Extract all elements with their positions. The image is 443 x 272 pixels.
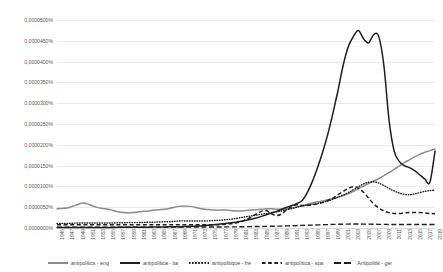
legend-label: antipolítica - spa xyxy=(285,260,323,266)
x-axis-tick-label: 1991 xyxy=(294,229,300,240)
x-axis-tick-label: 1983 xyxy=(253,229,259,240)
x-axis-tick-label: 2007 xyxy=(376,229,382,240)
legend-swatch-icon xyxy=(120,262,140,264)
x-axis-tick-label: 2011 xyxy=(396,229,402,239)
y-axis-tick-label: 0,0000250% xyxy=(24,121,53,127)
x-axis-tick-label: 2019 xyxy=(437,229,443,240)
x-axis-tick-label: 1949 xyxy=(80,229,86,240)
chart-legend: antipolitics - engantipolitica - itaanti… xyxy=(0,256,440,270)
legend-item[interactable]: antipolitica - ita xyxy=(120,260,178,266)
y-axis-tick-label: 0,0000500% xyxy=(24,17,53,23)
x-axis-tick-label: 1955 xyxy=(110,229,116,240)
legend-item[interactable]: antipolitics - eng xyxy=(48,260,109,266)
legend-label: antipolitica - ita xyxy=(143,260,178,266)
x-axis-tick-label: 2015 xyxy=(417,229,423,240)
x-axis-tick-label: 1947 xyxy=(69,229,75,240)
series-layer xyxy=(57,20,435,228)
x-axis-tick-label: 1959 xyxy=(131,229,137,240)
x-axis-tick-label: 1993 xyxy=(304,229,310,240)
legend-item[interactable]: antipolítica - spa xyxy=(262,260,323,266)
legend-swatch-icon xyxy=(189,262,209,264)
x-axis-tick-label: 1963 xyxy=(151,229,157,240)
x-axis-tick-label: 1961 xyxy=(141,229,147,240)
x-axis-tick-label: 1979 xyxy=(233,229,239,240)
x-axis-tick-label: 1951 xyxy=(90,229,96,240)
x-axis-tick-label: 2005 xyxy=(366,229,372,240)
x-axis-tick-label: 1995 xyxy=(315,229,321,240)
y-axis: 0,0000000%0,0000050%0,0000100%0,0000150%… xyxy=(0,0,57,236)
legend-label: Antipolitik - ger xyxy=(357,260,392,266)
x-axis-tick-label: 1977 xyxy=(223,229,229,240)
legend-label: antipolitique - fre xyxy=(212,260,251,266)
x-axis-tick-label: 2009 xyxy=(386,229,392,240)
y-axis-tick-label: 0,0000300% xyxy=(24,100,53,106)
legend-label: antipolitics - eng xyxy=(71,260,109,266)
x-axis-tick-label: 2003 xyxy=(355,229,361,240)
x-axis-tick-label: 1971 xyxy=(192,229,198,240)
legend-swatch-icon xyxy=(334,262,354,264)
y-axis-tick-label: 0,0000150% xyxy=(24,163,53,169)
y-axis-tick-label: 0,0000200% xyxy=(24,142,53,148)
x-axis-tick-label: 1987 xyxy=(274,229,280,240)
legend-swatch-icon xyxy=(48,262,68,264)
x-axis: 1945194719491951195319551957195919611963… xyxy=(57,229,435,259)
y-axis-tick-label: 0,0000350% xyxy=(24,79,53,85)
series-line-eng xyxy=(57,149,435,213)
x-axis-tick-label: 1945 xyxy=(59,229,65,240)
x-axis-tick-label: 1973 xyxy=(202,229,208,240)
series-line-ita xyxy=(57,30,435,227)
series-line-spa xyxy=(57,187,435,225)
y-axis-tick-label: 0,0000400% xyxy=(24,59,53,65)
x-axis-tick-label: 1997 xyxy=(325,229,331,240)
x-axis-tick-label: 1953 xyxy=(100,229,106,240)
x-axis-tick-label: 1965 xyxy=(161,229,167,240)
x-axis-tick-label: 1989 xyxy=(284,229,290,240)
x-axis-tick-label: 1999 xyxy=(335,229,341,240)
y-axis-tick-label: 0,0000450% xyxy=(24,38,53,44)
x-axis-tick-label: 1981 xyxy=(243,229,249,240)
legend-item[interactable]: antipolitique - fre xyxy=(189,260,251,266)
y-axis-tick-label: 0,0000050% xyxy=(24,204,53,210)
legend-item[interactable]: Antipolitik - ger xyxy=(334,260,392,266)
x-axis-tick-label: 1957 xyxy=(120,229,126,240)
x-axis-tick-label: 2017 xyxy=(427,229,433,240)
x-axis-tick-label: 1969 xyxy=(182,229,188,240)
x-axis-tick-label: 1975 xyxy=(212,229,218,240)
legend-swatch-icon xyxy=(262,262,282,264)
x-axis-tick-label: 1985 xyxy=(264,229,270,240)
x-axis-tick-label: 2013 xyxy=(407,229,413,240)
y-axis-tick-label: 0,0000000% xyxy=(24,225,53,231)
x-axis-tick-label: 2001 xyxy=(345,229,351,240)
y-axis-tick-label: 0,0000100% xyxy=(24,183,53,189)
series-line-fre xyxy=(57,182,435,224)
plot-area xyxy=(57,20,435,228)
x-axis-tick-label: 1967 xyxy=(172,229,178,240)
